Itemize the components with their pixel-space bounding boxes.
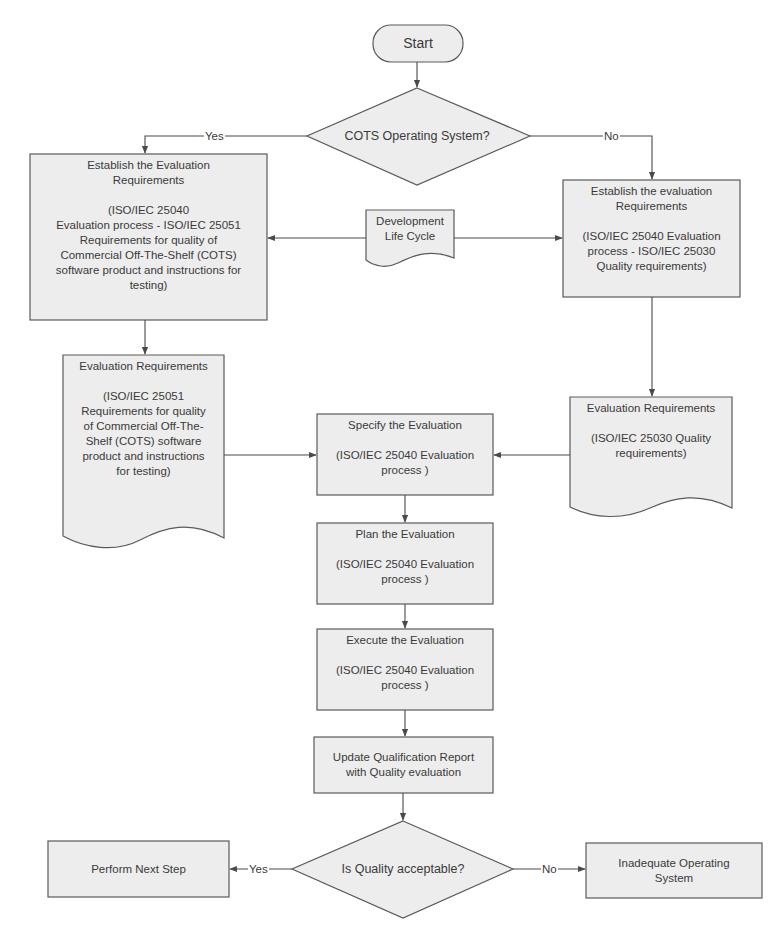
text-line: Shelf (COTS) software: [86, 434, 202, 449]
document-dev-life-cycle-text: Development Life Cycle: [366, 212, 454, 252]
process-plan-text: Plan the Evaluation (ISO/IEC 25040 Evalu…: [317, 525, 493, 604]
text-line: Update Qualification Report: [333, 750, 474, 765]
text-line: requirements): [616, 446, 687, 461]
text-line: Specify the Evaluation: [348, 418, 462, 433]
text-line: process - ISO/IEC 25030: [588, 244, 716, 259]
text-line: Requirements for quality: [81, 404, 206, 419]
text-line: (ISO/IEC 25040 Evaluation: [336, 448, 474, 463]
text-line: Evaluation Requirements: [79, 359, 208, 374]
decision-quality-label-box: Is Quality acceptable?: [305, 852, 501, 886]
text-line: Plan the Evaluation: [355, 527, 454, 542]
process-establish-left-text: Establish the Evaluation Requirements (I…: [30, 156, 267, 320]
process-inadequate-text: Inadequate Operating System: [586, 843, 762, 898]
text-line: software product and instructions for: [56, 263, 241, 278]
decision-quality-no-label: No: [541, 863, 558, 876]
connector-no-right: [530, 136, 652, 179]
text-line: Requirements: [113, 173, 185, 188]
text-line: Requirements for quality of: [80, 233, 217, 248]
text-line: Commercial Off-The-Shelf (COTS): [60, 248, 236, 263]
text-line: Quality requirements): [597, 259, 707, 274]
text-line: (ISO/IEC 25040 Evaluation: [336, 557, 474, 572]
text-line: (ISO/IEC 25051: [103, 389, 184, 404]
decision-quality-label: Is Quality acceptable?: [342, 862, 465, 877]
text-line: (ISO/IEC 25040: [108, 203, 189, 218]
text-line: (ISO/IEC 25030 Quality: [591, 431, 711, 446]
document-eval-req-left-text: Evaluation Requirements (ISO/IEC 25051 R…: [63, 357, 224, 527]
decision-quality-yes-label: Yes: [248, 863, 269, 876]
text-line: System: [655, 871, 693, 886]
text-line: Evaluation process - ISO/IEC 25051: [56, 218, 241, 233]
decision-cots-label-box: COTS Operating System?: [320, 118, 514, 154]
text-line: (ISO/IEC 25040 Evaluation: [336, 663, 474, 678]
text-line: Evaluation Requirements: [587, 401, 716, 416]
start-label-box: Start: [373, 25, 463, 62]
document-eval-req-right-text: Evaluation Requirements (ISO/IEC 25030 Q…: [570, 399, 732, 489]
text-line: Requirements: [616, 199, 688, 214]
text-line: Inadequate Operating: [618, 856, 729, 871]
decision-cots-label: COTS Operating System?: [344, 129, 489, 144]
text-line: process ): [381, 572, 428, 587]
process-execute-text: Execute the Evaluation (ISO/IEC 25040 Ev…: [317, 631, 493, 710]
decision-cots-yes-label: Yes: [204, 130, 225, 143]
text-line: (ISO/IEC 25040 Evaluation: [582, 229, 720, 244]
text-line: Establish the Evaluation: [87, 158, 210, 173]
decision-cots-no-label: No: [603, 130, 620, 143]
text-line: of Commercial Off-The-: [84, 419, 204, 434]
text-line: Development: [376, 214, 444, 229]
text-line: testing): [130, 278, 168, 293]
process-perform-next-text: Perform Next Step: [48, 841, 229, 897]
text-line: Establish the evaluation: [591, 184, 712, 199]
process-specify-text: Specify the Evaluation (ISO/IEC 25040 Ev…: [317, 416, 493, 495]
connector-yes-left: [145, 136, 307, 153]
process-update-text: Update Qualification Report with Quality…: [314, 737, 493, 793]
text-line: process ): [381, 463, 428, 478]
text-line: with Quality evaluation: [346, 765, 461, 780]
text-line: Perform Next Step: [91, 862, 186, 877]
text-line: product and instructions: [82, 449, 204, 464]
text-line: Execute the Evaluation: [346, 633, 464, 648]
text-line: process ): [381, 678, 428, 693]
start-label: Start: [403, 36, 433, 51]
process-establish-right-text: Establish the evaluation Requirements (I…: [563, 182, 740, 297]
text-line: for testing): [116, 464, 170, 479]
text-line: Life Cycle: [385, 229, 436, 244]
